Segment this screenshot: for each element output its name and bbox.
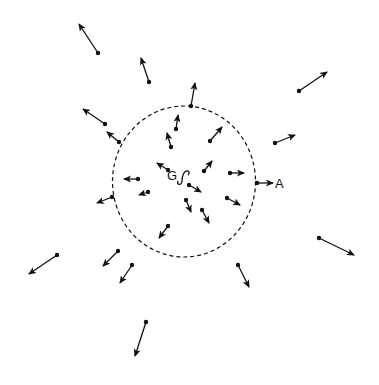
- arrow-origin-dot: [116, 249, 120, 253]
- arrow-shaft: [202, 210, 209, 223]
- arrow-origin-dot: [297, 89, 301, 93]
- arrow-shaft: [227, 198, 240, 205]
- arrow-origin-dot: [144, 320, 148, 324]
- arrow-origin-dot: [236, 263, 240, 267]
- inner-arrow: [187, 183, 201, 192]
- inner-arrow: [202, 161, 212, 173]
- arrow-origin-dot: [169, 145, 173, 149]
- arrow-origin-dot: [103, 122, 107, 126]
- arrow-shaft: [141, 58, 149, 82]
- arrow-shaft: [120, 265, 132, 283]
- arrow-shaft: [97, 197, 112, 203]
- arrow-shaft: [210, 127, 222, 141]
- arrow-origin-dot: [136, 177, 140, 181]
- outer-arrow: [79, 24, 100, 55]
- arrow-origin-dot: [146, 190, 150, 194]
- inner-arrow: [167, 133, 173, 149]
- arrow-origin-dot: [184, 198, 188, 202]
- arrow-shaft: [83, 109, 105, 124]
- inner-arrow: [200, 208, 209, 223]
- arrow-shaft: [275, 135, 295, 143]
- arrow-shaft: [107, 132, 119, 142]
- arrow-origin-dot: [200, 208, 204, 212]
- arrow-origin-dot: [208, 139, 212, 143]
- arrow-a: [255, 181, 273, 185]
- arrow-shaft: [103, 251, 118, 266]
- vector-field-diagram: G A: [0, 0, 379, 385]
- outer-arrow: [120, 263, 134, 283]
- outer-arrow: [141, 58, 151, 84]
- outer-arrow: [107, 132, 121, 144]
- outer-arrow: [236, 263, 249, 287]
- arrow-shaft: [135, 322, 146, 356]
- inner-arrow: [159, 224, 170, 238]
- arrow-shaft: [238, 265, 249, 287]
- arrow-origin-dot: [147, 80, 151, 84]
- dashed-boundary-circle: [113, 106, 256, 257]
- outer-arrow: [103, 249, 120, 266]
- arrow-origin-dot: [317, 236, 321, 240]
- inner-arrow: [228, 171, 244, 175]
- arrow-origin-dot: [55, 253, 59, 257]
- arrow-origin-dot: [202, 169, 206, 173]
- arrow-origin-dot: [166, 224, 170, 228]
- arrows-group: [29, 24, 354, 356]
- outer-arrow: [135, 320, 148, 356]
- inner-arrow: [184, 198, 191, 212]
- arrow-origin-dot: [255, 181, 259, 185]
- squiggle-curve: [178, 171, 190, 184]
- label-a: A: [275, 176, 284, 191]
- arrow-shaft: [79, 24, 98, 53]
- arrow-shaft: [29, 255, 57, 274]
- arrow-origin-dot: [189, 104, 193, 108]
- arrow-origin-dot: [96, 51, 100, 55]
- outer-arrow: [83, 109, 107, 126]
- arrow-shaft: [319, 238, 354, 255]
- arrow-shaft: [299, 72, 327, 91]
- arrow-origin-dot: [130, 263, 134, 267]
- label-g: G: [167, 168, 177, 183]
- inner-arrow: [124, 177, 140, 181]
- arrow-origin-dot: [110, 195, 114, 199]
- arrow-origin-dot: [273, 141, 277, 145]
- outer-arrow: [189, 83, 195, 108]
- inner-arrow: [208, 127, 222, 143]
- arrow-origin-dot: [187, 183, 191, 187]
- inner-arrow: [139, 190, 150, 195]
- outer-arrow: [317, 236, 354, 255]
- inner-arrow: [225, 196, 240, 205]
- arrow-shaft: [191, 83, 195, 106]
- outer-arrow: [297, 72, 327, 93]
- inner-arrow: [174, 115, 178, 131]
- arrow-shaft: [159, 226, 168, 238]
- arrow-origin-dot: [228, 171, 232, 175]
- arrow-origin-dot: [174, 127, 178, 131]
- outer-arrow: [97, 195, 114, 203]
- outer-arrow: [29, 253, 59, 274]
- outer-arrow: [273, 135, 295, 145]
- arrow-origin-dot: [225, 196, 229, 200]
- arrow-origin-dot: [117, 140, 121, 144]
